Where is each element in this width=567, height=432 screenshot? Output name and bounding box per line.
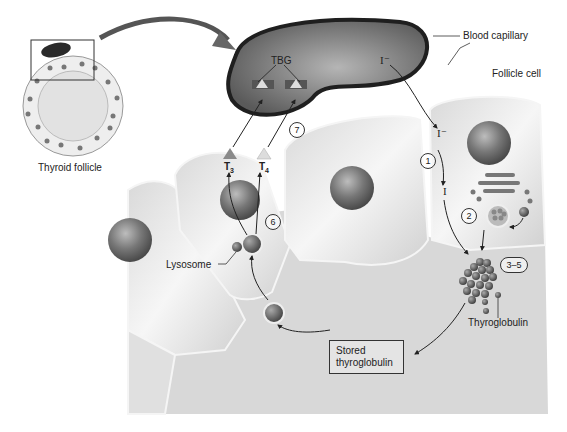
step-3-5-badge: 3–5 xyxy=(500,257,528,273)
iodide-capillary-label: I⁻ xyxy=(380,54,390,67)
t4-label: T4 xyxy=(259,161,269,174)
step-7-badge: 7 xyxy=(289,122,305,138)
iodine-label: I xyxy=(443,185,447,197)
step-2-badge: 2 xyxy=(461,208,477,224)
tbg-label: TBG xyxy=(271,56,292,66)
stored-thyroglobulin-line1: Stored xyxy=(336,345,393,357)
stored-thyroglobulin-box: Stored thyroglobulin xyxy=(329,340,404,374)
blood-capillary xyxy=(228,20,427,115)
thyroglobulin-label: Thyroglobulin xyxy=(468,318,528,328)
iodide-cell-label: I⁻ xyxy=(437,127,447,140)
follicle-cell-label: Follicle cell xyxy=(492,69,541,79)
thyroid-follicle-label: Thyroid follicle xyxy=(38,163,102,173)
step-1-badge: 1 xyxy=(420,153,436,169)
stored-thyroglobulin-line2: thyroglobulin xyxy=(336,357,393,369)
t3-label: T3 xyxy=(224,161,234,174)
lysosome-label: Lysosome xyxy=(166,260,211,270)
blood-capillary-label: Blood capillary xyxy=(463,31,528,41)
step-6-badge: 6 xyxy=(265,214,281,230)
thyroid-follicle-overview xyxy=(23,40,123,156)
